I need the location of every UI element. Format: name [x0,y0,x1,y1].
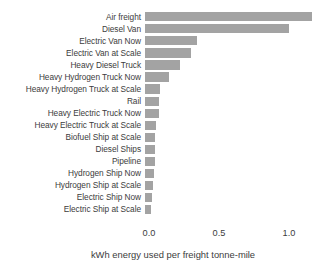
bar-row: Heavy Hydrogen Truck Now [0,71,324,83]
bar-row: Heavy Hydrogen Truck at Scale [0,83,324,95]
bar-category-label: Heavy Electric Truck at Scale [0,121,145,130]
bar-row: Air freight [0,11,324,23]
bar-track [145,156,324,168]
bar-track [145,95,324,107]
bar-track [145,35,324,47]
bar-category-label: Biofuel Ship at Scale [0,133,145,142]
bar-chart: Air freightDiesel VanElectric Van NowEle… [0,0,324,279]
bar-row: Heavy Electric Truck at Scale [0,119,324,131]
bar-row: Diesel Van [0,23,324,35]
bar-row: Electric Ship Now [0,192,324,204]
bar-row: Hydrogen Ship at Scale [0,180,324,192]
bar-category-label: Heavy Hydrogen Truck at Scale [0,85,145,94]
bar-category-label: Heavy Diesel Truck [0,61,145,70]
bar-category-label: Hydrogen Ship Now [0,169,145,178]
x-axis-tick-label: 1.0 [283,228,296,239]
bar[interactable] [145,157,155,166]
bar-row: Biofuel Ship at Scale [0,131,324,143]
bar[interactable] [145,48,191,57]
bar[interactable] [145,36,197,45]
bar-track [145,192,324,204]
x-axis: 0.00.51.0 [149,228,324,242]
bar[interactable] [145,97,159,106]
bar-category-label: Heavy Electric Truck Now [0,109,145,118]
bar[interactable] [145,133,155,142]
bar[interactable] [145,169,154,178]
bar[interactable] [145,193,152,202]
bar[interactable] [145,24,289,33]
x-axis-title: kWh energy used per freight tonne-mile [0,249,324,261]
bar-row: Diesel Ships [0,144,324,156]
x-axis-tick-label: 0.5 [213,228,226,239]
bar-category-label: Electric Van Now [0,37,145,46]
bar-category-label: Pipeline [0,157,145,166]
bar-track [145,131,324,143]
bar-track [145,71,324,83]
bar-row: Electric Ship at Scale [0,204,324,216]
bar-category-label: Rail [0,97,145,106]
bar-track [145,204,324,216]
bar-track [145,168,324,180]
bar-row: Electric Van at Scale [0,47,324,59]
bar-track [145,83,324,95]
bar-category-label: Electric Ship at Scale [0,205,145,214]
bar-category-label: Electric Van at Scale [0,49,145,58]
bar-category-label: Diesel Van [0,25,145,34]
chart-plot-area: Air freightDiesel VanElectric Van NowEle… [0,11,324,216]
bar-row: Pipeline [0,156,324,168]
bar[interactable] [145,84,160,93]
bar-track [145,47,324,59]
bar-track [145,11,324,23]
bar[interactable] [145,72,169,81]
bar-category-label: Heavy Hydrogen Truck Now [0,73,145,82]
bar-category-label: Electric Ship Now [0,193,145,202]
bar-track [145,119,324,131]
bar[interactable] [145,121,156,130]
bar-category-label: Hydrogen Ship at Scale [0,181,145,190]
bar[interactable] [145,109,159,118]
bar[interactable] [145,12,312,21]
bar-track [145,107,324,119]
bar-row: Rail [0,95,324,107]
bar[interactable] [145,145,155,154]
bar-track [145,144,324,156]
bar-row: Heavy Diesel Truck [0,59,324,71]
bar-category-label: Diesel Ships [0,145,145,154]
x-axis-tick-label: 0.0 [143,228,156,239]
bar[interactable] [145,60,180,69]
bar[interactable] [145,205,151,214]
bar[interactable] [145,181,153,190]
bar-track [145,23,324,35]
bar-category-label: Air freight [0,13,145,22]
bar-track [145,180,324,192]
bar-track [145,59,324,71]
bar-row: Electric Van Now [0,35,324,47]
bar-row: Hydrogen Ship Now [0,168,324,180]
bar-row: Heavy Electric Truck Now [0,107,324,119]
